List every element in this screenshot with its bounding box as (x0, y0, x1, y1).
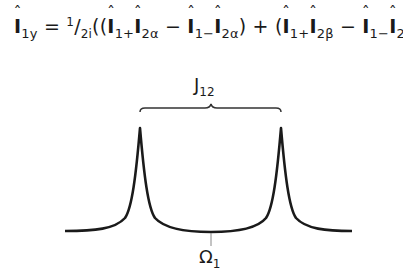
spectrum-diagram (0, 0, 403, 274)
coupling-brace (140, 104, 281, 112)
center-label-omega1: Ω1 (199, 246, 220, 271)
doublet-spectrum-line (65, 128, 352, 232)
coupling-label-j12: J12 (194, 74, 215, 99)
